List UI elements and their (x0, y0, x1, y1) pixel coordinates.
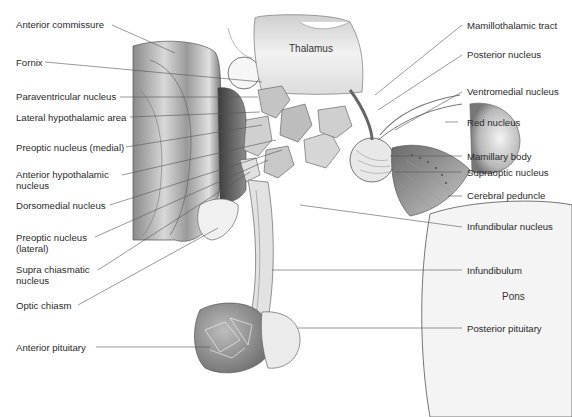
label-anterior-hypothalamic-nucleus: Anterior hypothalamicnucleus (16, 169, 109, 191)
label-preoptic-nucleus-lateral: Preoptic nucleus(lateral) (16, 232, 87, 254)
label-supra-chiasmatic-nucleus: Supra chiasmaticnucleus (16, 264, 90, 286)
label-mamillary-body: Mamillary body (467, 151, 532, 162)
label-cerebral-peduncle: Cerebral peduncle (467, 190, 545, 201)
thalamus-label: Thalamus (289, 43, 333, 54)
label-ventromedial-nucleus: Ventromedial nucleus (467, 86, 559, 97)
label-infundibulum: Infundibulum (467, 265, 522, 276)
label-paraventricular-nucleus: Paraventricular nucleus (16, 91, 116, 102)
label-mamillothalamic-tract: Mamillothalamic tract (467, 20, 557, 31)
label-posterior-nucleus: Posterior nucleus (467, 49, 541, 60)
label-posterior-pituitary: Posterior pituitary (467, 323, 542, 334)
label-dorsomedial-nucleus: Dorsomedial nucleus (16, 200, 106, 211)
label-optic-chiasm: Optic chiasm (16, 300, 71, 311)
label-supraoptic-nucleus: Supraoptic nucleus (467, 167, 549, 178)
label-infundibular-nucleus: Infundibular nucleus (467, 221, 553, 232)
label-preoptic-nucleus-medial: Preoptic nucleus (medial) (16, 142, 124, 153)
label-red-nucleus: Red nucleus (467, 117, 520, 128)
label-lateral-hypothalamic-area: Lateral hypothalamic area (16, 112, 126, 123)
label-fornix: Fornix (16, 57, 43, 68)
label-anterior-pituitary: Anterior pituitary (16, 342, 86, 353)
pons-label: Pons (502, 291, 525, 302)
label-anterior-commissure: Anterior commissure (16, 19, 104, 30)
hypothalamus-diagram: Thalamus Pons Anterior commissure Fornix… (0, 0, 572, 417)
